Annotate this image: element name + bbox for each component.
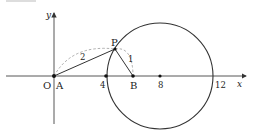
segment-PB-label: 1 — [128, 54, 133, 64]
header-artifact — [6, 0, 36, 2]
point-B-label: B — [130, 80, 137, 91]
x-axis-label: x — [237, 79, 242, 89]
point-P-label: P — [111, 37, 118, 48]
tick-label-12: 12 — [215, 80, 226, 90]
point-center — [158, 74, 161, 77]
origin-label: O — [43, 80, 51, 91]
point-4 — [104, 74, 108, 78]
diagram-canvas: y x O A 4 B 8 12 P 2 1 — [0, 0, 260, 136]
point-B — [131, 74, 135, 78]
y-axis-label: y — [45, 10, 52, 20]
tick-label-4: 4 — [100, 80, 105, 90]
tick-label-8: 8 — [158, 80, 163, 90]
point-A-label: A — [55, 80, 64, 91]
point-A — [52, 74, 56, 78]
segment-AP-label: 2 — [80, 52, 85, 62]
